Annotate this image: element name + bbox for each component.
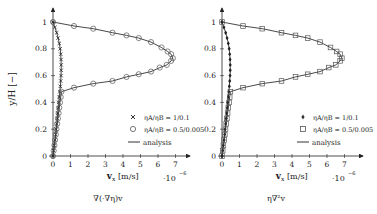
x-tick-label: 1	[237, 160, 242, 169]
left-legend-entry-3: analysis	[143, 139, 172, 147]
legend-circle-marker-icon	[130, 126, 135, 131]
svg-text:·10: ·10	[332, 174, 345, 183]
left-legend: ηA/ηB = 1/0.1 ηA/ηB = 0.5/0.005 analysis	[128, 114, 204, 147]
data-point-diamond	[227, 41, 230, 45]
data-point-diamond	[226, 36, 229, 40]
data-point-diamond	[228, 79, 231, 83]
analysis-line	[222, 22, 230, 156]
legend-diamond-marker-icon	[301, 115, 304, 120]
y-tick-label: 0	[211, 152, 216, 161]
svg-text:−6: −6	[348, 170, 355, 176]
analysis-line	[53, 22, 173, 156]
right-plot-area	[220, 20, 344, 159]
svg-text:x: x	[112, 175, 116, 182]
left-x-scale-note: ·10 −6	[163, 170, 186, 183]
left-legend-entry-1: ηA/ηB = 1/0.1	[144, 114, 190, 122]
x-tick-label: 4	[121, 160, 126, 169]
x-tick-label: 0	[220, 160, 225, 169]
data-point-diamond	[228, 52, 231, 56]
right-legend-entry-2: ηA/ηB = 0.5/0.005	[313, 126, 373, 134]
chart-left: 0123456700.20.40.60.81 y/H [−] v x [m/s]…	[7, 8, 204, 203]
data-point-diamond	[229, 68, 232, 72]
y-tick-label: 0.2	[35, 125, 47, 134]
right-legend-entry-1: ηA/ηB = 1/0.1	[313, 114, 359, 122]
x-tick-label: 6	[156, 160, 161, 169]
figure: 0123456700.20.40.60.81 y/H [−] v x [m/s]…	[0, 0, 377, 214]
data-point-diamond	[228, 84, 231, 88]
x-tick-label: 3	[272, 160, 277, 169]
right-x-axis-label: v x [m/s]	[275, 171, 308, 182]
y-tick-label: 0.6	[35, 71, 47, 80]
y-tick-label: 0.4	[35, 98, 47, 107]
x-tick-label: 4	[290, 160, 295, 169]
y-tick-label: 0.4	[204, 98, 216, 107]
x-tick-label: 2	[255, 160, 260, 169]
x-tick-label: 7	[342, 160, 347, 169]
data-point-diamond	[229, 73, 232, 77]
legend-x-marker-icon	[131, 115, 135, 119]
legend-square-marker-icon	[301, 127, 306, 132]
left-caption: ∇(·∇η)v	[93, 194, 123, 203]
x-tick-label: 6	[325, 160, 330, 169]
chart-right: 0123456700.20.40.60.81 v x [m/s] ·10 −6 …	[204, 8, 373, 203]
x-tick-label: 7	[173, 160, 178, 169]
right-legend: ηA/ηB = 1/0.1 ηA/ηB = 0.5/0.005 analysis	[297, 114, 373, 147]
y-tick-label: 0.8	[204, 44, 216, 53]
left-legend-entry-2: ηA/ηB = 0.5/0.005	[144, 126, 204, 134]
x-tick-label: 0	[51, 160, 56, 169]
x-tick-label: 2	[86, 160, 91, 169]
y-tick-label: 1	[211, 18, 216, 27]
left-y-axis-label: y/H [−]	[7, 72, 17, 106]
x-tick-label: 5	[138, 160, 143, 169]
data-point-diamond	[224, 31, 227, 35]
y-tick-label: 0.8	[35, 44, 47, 53]
y-tick-label: 0	[42, 152, 47, 161]
x-tick-label: 5	[307, 160, 312, 169]
right-x-scale-note: ·10 −6	[332, 170, 355, 183]
svg-text:x: x	[281, 175, 285, 182]
svg-text:[m/s]: [m/s]	[118, 172, 139, 181]
y-tick-label: 1	[42, 18, 47, 27]
left-x-axis-label: v x [m/s]	[106, 171, 139, 182]
data-point-diamond	[229, 57, 232, 61]
analysis-line	[222, 22, 342, 156]
x-tick-label: 3	[103, 160, 108, 169]
left-plot-area	[50, 19, 175, 158]
data-point-diamond	[228, 47, 231, 51]
svg-text:[m/s]: [m/s]	[287, 172, 308, 181]
y-tick-label: 0.2	[204, 125, 216, 134]
right-legend-entry-3: analysis	[312, 139, 341, 147]
y-tick-label: 0.6	[204, 71, 216, 80]
svg-text:·10: ·10	[163, 174, 176, 183]
data-point-diamond	[229, 63, 232, 67]
svg-text:−6: −6	[179, 170, 186, 176]
x-tick-label: 1	[68, 160, 73, 169]
right-caption: η∇²v	[267, 194, 286, 203]
